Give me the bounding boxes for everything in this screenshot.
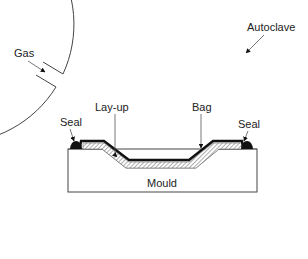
seal-left-label: Seal bbox=[60, 116, 82, 128]
seal-right-label: Seal bbox=[238, 118, 260, 130]
layup-label: Lay-up bbox=[95, 101, 129, 113]
gas-label: Gas bbox=[14, 47, 35, 59]
gas-arrow bbox=[28, 61, 45, 72]
autoclave-label: Autoclave bbox=[247, 21, 295, 33]
autoclave-diagram: Gas Autoclave Mould Seal Seal Lay-up Bag bbox=[0, 0, 308, 259]
autoclave-arrow bbox=[246, 35, 264, 53]
bag-label: Bag bbox=[192, 101, 212, 113]
seal-left-arrow bbox=[70, 129, 74, 141]
seal-right-arrow bbox=[244, 131, 248, 141]
gas-inlet bbox=[36, 62, 63, 87]
mould-label: Mould bbox=[147, 177, 177, 189]
